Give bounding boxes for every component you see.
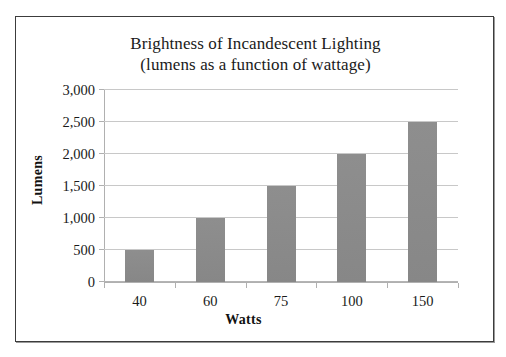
gridline <box>104 153 458 154</box>
bar[interactable] <box>125 250 154 282</box>
x-axis-tick-label: 150 <box>412 293 434 310</box>
x-axis-title: Watts <box>16 312 471 328</box>
bar[interactable] <box>337 154 366 282</box>
plot-area: 05001,0001,5002,0002,5003,000 4060751001… <box>104 90 458 282</box>
bar[interactable] <box>196 218 225 282</box>
gridline <box>104 121 458 122</box>
x-axis-tick <box>316 283 317 288</box>
bar[interactable] <box>267 186 296 282</box>
y-axis-tick <box>99 153 104 154</box>
bar[interactable] <box>408 122 437 282</box>
y-axis-tick-label: 0 <box>88 274 95 291</box>
x-axis-tick-label: 100 <box>341 293 363 310</box>
gridline <box>104 89 458 90</box>
x-axis-tick <box>246 283 247 288</box>
chart-frame: Brightness of Incandescent Lighting (lum… <box>15 16 494 342</box>
y-axis-tick-label: 2,000 <box>62 146 95 163</box>
x-axis-tick <box>104 283 105 288</box>
y-axis-tick <box>99 217 104 218</box>
y-axis-tick-label: 2,500 <box>62 114 95 131</box>
y-axis-title: Lumens <box>30 155 46 205</box>
y-axis-tick <box>99 185 104 186</box>
x-axis-tick-label: 75 <box>274 293 289 310</box>
y-axis-tick <box>99 281 104 282</box>
y-axis-tick <box>99 121 104 122</box>
y-axis-tick-label: 500 <box>73 242 95 259</box>
y-axis-tick <box>99 89 104 90</box>
x-axis-tick-label: 40 <box>132 293 147 310</box>
y-axis-tick <box>99 249 104 250</box>
chart-title: Brightness of Incandescent Lighting (lum… <box>16 33 495 75</box>
y-axis-tick-label: 3,000 <box>62 82 95 99</box>
x-axis-tick <box>387 283 388 288</box>
x-axis-tick-label: 60 <box>203 293 218 310</box>
x-axis-tick <box>458 283 459 288</box>
x-axis-tick <box>175 283 176 288</box>
y-axis-tick-label: 1,500 <box>62 178 95 195</box>
x-axis-line <box>104 282 458 283</box>
chart-subtitle: (lumens as a function of wattage) <box>16 54 495 75</box>
y-axis-tick-label: 1,000 <box>62 210 95 227</box>
chart-title-line-1: Brightness of Incandescent Lighting <box>130 34 380 53</box>
